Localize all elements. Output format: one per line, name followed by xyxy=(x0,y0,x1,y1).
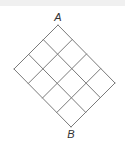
label-a: A xyxy=(54,12,61,23)
grid-lines xyxy=(14,25,115,127)
label-b: B xyxy=(67,129,74,140)
grid-diagram xyxy=(0,0,125,147)
